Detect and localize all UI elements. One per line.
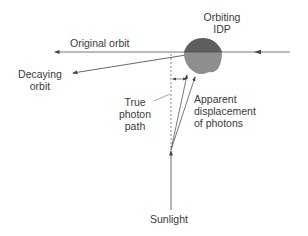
true-photon-path-label: True photon path bbox=[114, 96, 156, 132]
true-photon-path-label-line1: True bbox=[114, 96, 156, 108]
orbit-direction-arrow-icon bbox=[254, 50, 261, 54]
sunlight-label: Sunlight bbox=[150, 213, 188, 225]
apparent-displacement-label-line3: of photons bbox=[194, 117, 256, 129]
apparent-displacement-label: Apparent displacement of photons bbox=[194, 93, 256, 129]
true-photon-path-label-line2: photon bbox=[114, 108, 156, 120]
original-orbit-label: Original orbit bbox=[70, 37, 130, 49]
apparent-photon-path-1 bbox=[171, 75, 187, 150]
apparent-photon-path-2 bbox=[171, 77, 195, 150]
decaying-orbit-label: Decaying orbit bbox=[14, 68, 66, 92]
decaying-orbit-label-line1: Decaying bbox=[14, 68, 66, 80]
apparent-displacement-label-line1: Apparent bbox=[194, 93, 256, 105]
orbiting-idp-label-line1: Orbiting bbox=[194, 11, 250, 23]
true-photon-leader bbox=[154, 94, 170, 101]
decaying-orbit-label-line2: orbit bbox=[14, 80, 66, 92]
idp-particle-top bbox=[184, 38, 222, 52]
orbiting-idp-label: Orbiting IDP bbox=[194, 11, 250, 35]
idp-particle-bottom bbox=[184, 52, 222, 74]
true-photon-path-label-line3: path bbox=[114, 120, 156, 132]
decaying-orbit-line bbox=[73, 55, 186, 73]
orbiting-idp-label-line2: IDP bbox=[194, 23, 250, 35]
apparent-displacement-label-line2: displacement bbox=[194, 105, 256, 117]
